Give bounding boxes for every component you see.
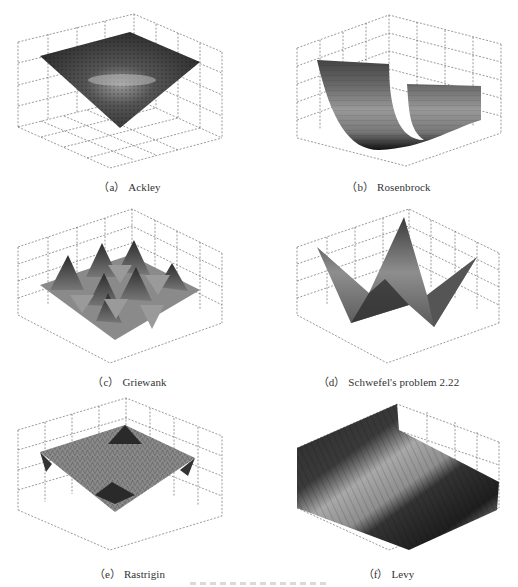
rastrigin-surface-plot (0, 390, 259, 565)
panel-schwefel-2-22: （d） Schwefel's problem 2.22 (259, 195, 518, 388)
caption-griewank: （c） Griewank (0, 373, 259, 389)
caption-levy: （f） Levy (259, 565, 518, 581)
griewank-surface-plot (0, 195, 259, 370)
caption-schwefel: （d） Schwefel's problem 2.22 (259, 373, 518, 389)
panel-ackley: （a） Ackley (0, 0, 259, 193)
caption-rastrigin: （e） Rastrigin (0, 565, 259, 581)
panel-rosenbrock: （b） Rosenbrock (259, 0, 518, 193)
levy-surface-plot (259, 390, 518, 565)
ackley-surface-plot (0, 0, 259, 175)
caption-ackley: （a） Ackley (0, 178, 259, 194)
panel-rastrigin: （e） Rastrigin (0, 390, 259, 583)
rosenbrock-surface-plot (259, 0, 518, 175)
truncated-figure-caption (190, 582, 330, 585)
panel-griewank: （c） Griewank (0, 195, 259, 388)
caption-rosenbrock: （b） Rosenbrock (259, 178, 518, 194)
panel-levy: （f） Levy (259, 390, 518, 583)
schwefel-surface-plot (259, 195, 518, 370)
